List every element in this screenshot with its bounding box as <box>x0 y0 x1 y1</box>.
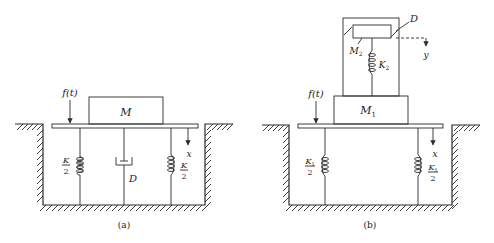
figure-a: M f(t) K 2 D <box>15 87 233 230</box>
damper-hatch-right <box>391 30 398 37</box>
force-label-a: f(t) <box>61 87 78 98</box>
damper-hatch-left <box>344 27 352 35</box>
svg-text:2: 2 <box>63 167 68 176</box>
svg-text:2: 2 <box>181 172 186 181</box>
spring-k2 <box>369 38 376 96</box>
svg-text:K: K <box>62 156 70 165</box>
spring-right-b <box>415 128 422 205</box>
caption-a: (a) <box>118 220 130 230</box>
mass2-label: M2 <box>348 46 362 57</box>
platform-plate-a <box>52 124 198 128</box>
mass1-label: M1 <box>359 104 376 119</box>
displacement-label-a: x <box>186 149 191 159</box>
svg-text:2: 2 <box>430 174 435 183</box>
displacement-label-b: x <box>432 149 437 159</box>
mass2-block <box>353 25 391 38</box>
svg-text:K1: K1 <box>304 157 314 167</box>
force-label-b: f(t) <box>307 88 324 99</box>
y-label: y <box>422 50 429 60</box>
mechanical-vibration-diagram: M f(t) K 2 D <box>0 0 494 243</box>
damper-leader-line <box>396 22 409 31</box>
spring-right-a <box>168 128 175 205</box>
spring-left-b <box>322 128 329 205</box>
svg-text:K: K <box>180 161 188 170</box>
spring-k2-label: K2 <box>378 60 390 71</box>
svg-text:K1: K1 <box>427 163 437 173</box>
damper-a <box>116 128 132 205</box>
spring-left-b-label: K1 2 <box>304 157 315 177</box>
spring-right-a-label: K 2 <box>180 161 188 181</box>
mass2-leader-line <box>358 38 362 44</box>
damper-label-a: D <box>128 173 137 184</box>
spring-right-b-label: K1 2 <box>427 163 438 183</box>
figure-b: M1 D M2 K2 y f(t) <box>262 13 480 230</box>
caption-b: (b) <box>364 220 377 230</box>
mass-label-a: M <box>119 106 132 119</box>
ground-pit-b <box>262 125 480 211</box>
spring-left-a-label: K 2 <box>62 156 70 176</box>
svg-text:2: 2 <box>307 168 312 177</box>
spring-left-a <box>77 128 84 205</box>
platform-plate-b <box>298 124 443 128</box>
damper-label-b: D <box>409 13 418 24</box>
